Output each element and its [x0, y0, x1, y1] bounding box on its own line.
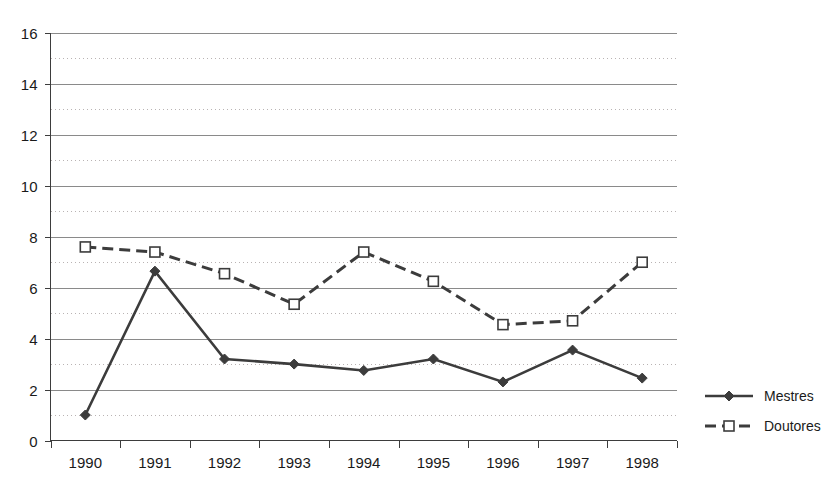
- x-axis-tick-labels: 199019911992199319941995199619971998: [69, 454, 659, 471]
- x-axis-tick-label: 1993: [277, 454, 310, 471]
- y-axis-tick-label: 2: [29, 382, 37, 399]
- x-axis-tick-label: 1998: [626, 454, 659, 471]
- line-chart: 0246810121416 19901991199219931994199519…: [0, 0, 837, 492]
- data-point-marker: [80, 242, 90, 252]
- y-axis-tick-label: 0: [29, 433, 37, 450]
- y-axis-tick-label: 14: [21, 76, 38, 93]
- y-axis-tick-label: 16: [21, 25, 38, 42]
- data-point-marker: [568, 316, 578, 326]
- data-point-marker: [289, 299, 299, 309]
- x-axis-tick-label: 1996: [486, 454, 519, 471]
- data-point-marker: [150, 247, 160, 257]
- chart-container: 0246810121416 19901991199219931994199519…: [0, 0, 837, 492]
- x-axis-tick-label: 1997: [556, 454, 589, 471]
- y-axis-tick-label: 4: [29, 331, 37, 348]
- data-point-marker: [498, 320, 508, 330]
- data-point-marker: [637, 257, 647, 267]
- x-axis-tick-label: 1992: [208, 454, 241, 471]
- legend-marker: [724, 421, 734, 431]
- data-point-marker: [428, 276, 438, 286]
- legend-label: Mestres: [764, 388, 814, 404]
- chart-background: [0, 0, 837, 492]
- y-axis-tick-label: 8: [29, 229, 37, 246]
- x-axis-tick-label: 1991: [138, 454, 171, 471]
- data-point-marker: [359, 247, 369, 257]
- legend-label: Doutores: [764, 418, 821, 434]
- y-axis-tick-label: 6: [29, 280, 37, 297]
- data-point-marker: [220, 269, 230, 279]
- y-axis-tick-label: 10: [21, 178, 38, 195]
- x-axis-tick-label: 1990: [69, 454, 102, 471]
- x-axis-tick-label: 1995: [417, 454, 450, 471]
- x-axis-tick-label: 1994: [347, 454, 380, 471]
- y-axis-tick-label: 12: [21, 127, 38, 144]
